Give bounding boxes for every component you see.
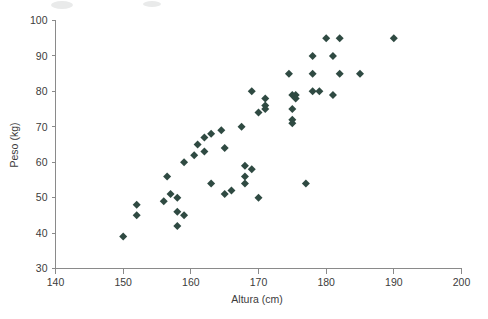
x-tick-label: 140 (47, 276, 65, 288)
y-tick-label: 50 (36, 191, 48, 203)
data-point (322, 34, 330, 42)
data-point (207, 130, 215, 138)
y-tick-label: 30 (36, 262, 48, 274)
x-tick-label: 200 (453, 276, 471, 288)
data-point (285, 70, 293, 78)
data-point (173, 208, 181, 216)
data-point (241, 172, 249, 180)
y-axis: 30405060708090100 (30, 14, 56, 274)
x-tick-label: 190 (385, 276, 403, 288)
data-point (241, 162, 249, 170)
x-axis-title: Altura (cm) (231, 293, 282, 305)
x-tick-label: 170 (250, 276, 268, 288)
data-point (200, 133, 208, 141)
data-point (163, 172, 171, 180)
x-axis: 140150160170180190200 (47, 269, 471, 288)
data-point (180, 211, 188, 219)
data-point (200, 148, 208, 156)
data-point (133, 201, 141, 209)
data-point (133, 211, 141, 219)
data-point (238, 123, 246, 131)
scatter-plot-svg: 30405060708090100 140150160170180190200 … (0, 0, 488, 319)
data-point (302, 179, 310, 187)
data-point (255, 109, 263, 117)
data-points-layer (119, 34, 398, 240)
data-point (194, 141, 202, 149)
y-tick-label: 100 (30, 14, 48, 26)
data-point (261, 94, 269, 102)
data-point (207, 179, 215, 187)
data-point (336, 34, 344, 42)
data-point (173, 222, 181, 230)
data-point (221, 144, 229, 152)
y-axis-title: Peso (kg) (8, 123, 20, 168)
data-point (227, 187, 235, 195)
data-point (160, 197, 168, 205)
y-tick-label: 70 (36, 121, 48, 133)
data-point (221, 190, 229, 198)
data-point (255, 194, 263, 202)
y-tick-label: 80 (36, 85, 48, 97)
data-point (336, 70, 344, 78)
y-tick-label: 90 (36, 50, 48, 62)
data-point (356, 70, 364, 78)
x-tick-label: 180 (317, 276, 335, 288)
data-point (329, 52, 337, 60)
data-point (190, 151, 198, 159)
data-point (119, 233, 127, 241)
scan-artifact (51, 1, 161, 9)
data-point (390, 34, 398, 42)
x-tick-label: 160 (182, 276, 200, 288)
data-point (180, 158, 188, 166)
data-point (329, 91, 337, 99)
data-point (288, 105, 296, 113)
data-point (173, 194, 181, 202)
data-point (315, 87, 323, 95)
data-point (217, 126, 225, 134)
data-point (309, 70, 317, 78)
y-tick-label: 40 (36, 227, 48, 239)
data-point (248, 165, 256, 173)
data-point (167, 190, 175, 198)
data-point (248, 87, 256, 95)
data-point (309, 52, 317, 60)
x-tick-label: 150 (114, 276, 132, 288)
y-tick-label: 60 (36, 156, 48, 168)
scatter-chart-figure: 30405060708090100 140150160170180190200 … (0, 0, 488, 319)
data-point (241, 179, 249, 187)
